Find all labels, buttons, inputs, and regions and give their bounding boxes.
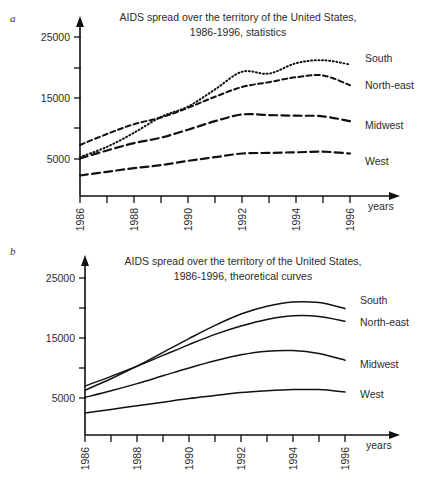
chart-a-ytick-5000: 5000	[47, 153, 71, 165]
chart-a-label-south: South	[365, 52, 393, 64]
curve-north-east	[80, 75, 350, 145]
chart-b-xtick-1992: 1992	[235, 447, 247, 471]
chart-a-xtick-1986: 1986	[74, 208, 86, 232]
chart-a-ytick-15000: 15000	[41, 92, 70, 104]
chart-b-label-midwest: Midwest	[360, 358, 399, 370]
chart-a-label-midwest: Midwest	[365, 119, 404, 131]
chart-b-xtick-1986: 1986	[79, 447, 91, 471]
chart-b-xlabel: years	[366, 439, 392, 451]
curve-midwest	[85, 350, 345, 397]
chart-a-label-north-east: North-east	[365, 79, 414, 91]
chart-panel-a: a AIDS spread over the territory of the …	[0, 0, 429, 243]
chart-a-xtick-1992: 1992	[236, 208, 248, 232]
chart-b-label-west: West	[360, 388, 384, 400]
chart-b-title-line1: AIDS spread over the territory of the Un…	[125, 255, 362, 267]
chart-a-x-ticks	[80, 196, 350, 203]
chart-a-xtick-1988: 1988	[128, 208, 140, 232]
chart-a-xtick-1990: 1990	[182, 208, 194, 232]
chart-b-curves	[85, 302, 345, 413]
chart-b-ytick-15000: 15000	[46, 332, 75, 344]
curve-west	[85, 389, 345, 413]
chart-b-y-axis	[81, 255, 89, 435]
chart-b-xtick-1996: 1996	[339, 447, 351, 471]
chart-b-ytick-25000: 25000	[46, 272, 75, 284]
chart-b-title-line2: 1986-1996, theoretical curves	[174, 270, 312, 282]
chart-a-xtick-1994: 1994	[290, 208, 302, 232]
chart-b-xtick-1994: 1994	[287, 447, 299, 471]
chart-b-x-axis	[85, 431, 400, 439]
chart-b-x-ticks	[85, 435, 345, 442]
chart-b-svg: AIDS spread over the territory of the Un…	[0, 240, 429, 485]
chart-panel-b: b AIDS spread over the territory of the …	[0, 240, 429, 485]
chart-b-xtick-1990: 1990	[183, 447, 195, 471]
chart-a-label-west: West	[365, 155, 389, 167]
chart-a-xtick-1996: 1996	[344, 208, 356, 232]
chart-b-label-north-east: North-east	[360, 316, 409, 328]
chart-b-ytick-5000: 5000	[52, 392, 76, 404]
chart-b-label-south: South	[360, 294, 388, 306]
chart-a-title-line1: AIDS spread over the territory of the Un…	[120, 11, 357, 23]
chart-a-x-axis	[80, 192, 400, 200]
curve-west	[80, 152, 350, 176]
chart-a-y-axis	[76, 16, 84, 196]
chart-a-xlabel: years	[368, 200, 394, 212]
chart-a-title-line2: 1986-1996, statistics	[190, 26, 286, 38]
chart-a-ytick-25000: 25000	[41, 31, 70, 43]
chart-b-xtick-1988: 1988	[131, 447, 143, 471]
chart-a-curves	[80, 60, 350, 175]
chart-a-svg: AIDS spread over the territory of the Un…	[0, 0, 429, 243]
